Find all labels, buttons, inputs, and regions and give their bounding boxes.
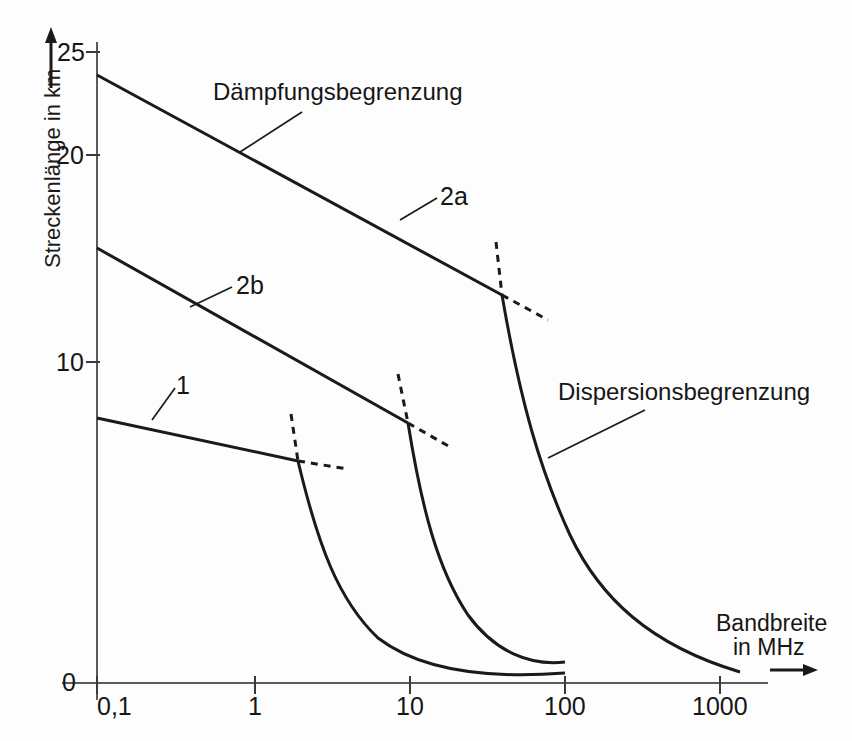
x-tick-label-100: 100: [544, 692, 586, 721]
curve-2a-label-leader: [400, 198, 437, 220]
dispersion-label-leader: [548, 410, 645, 458]
x-tick-label-0-1: 0,1: [97, 692, 132, 721]
y-tick-label-10: 10: [56, 348, 84, 377]
chart-figure: Streckenlänge in km 25 20 10 0 0,1 1 10 …: [0, 0, 852, 741]
x-tick-label-1: 1: [248, 692, 262, 721]
x-tick-label-10: 10: [396, 692, 424, 721]
y-tick-label-0: 0: [62, 668, 76, 697]
series-2a-dispersion-extension: [496, 242, 502, 295]
y-tick-label-20: 20: [56, 141, 84, 170]
attenuation-label-leader: [240, 112, 302, 152]
series-1-attenuation-extension: [298, 461, 348, 469]
x-tick-label-1000: 1000: [692, 692, 748, 721]
curve-1-label-leader: [152, 388, 175, 420]
series-1-attenuation-line: [97, 418, 298, 461]
annotation-curve-2b: 2b: [236, 271, 264, 300]
x-axis-title-line1: Bandbreite: [716, 610, 827, 636]
x-axis-title-line2: in MHz: [733, 634, 805, 660]
series-2a-attenuation-extension: [502, 295, 548, 320]
series-1-dispersion-curve: [298, 461, 565, 675]
y-tick-label-25: 25: [57, 38, 85, 67]
series-2b-dispersion-extension: [398, 374, 408, 423]
series-1-dispersion-extension: [291, 414, 298, 461]
curve-2b-label-leader: [190, 287, 232, 307]
series-2a-dispersion-curve: [502, 295, 740, 672]
series-2b-attenuation-extension: [408, 423, 450, 447]
annotation-curve-2a: 2a: [440, 182, 468, 211]
annotation-dispersion: Dispersionsbegrenzung: [558, 378, 810, 406]
x-axis-arrow-icon: [770, 664, 818, 676]
annotation-curve-1: 1: [176, 371, 190, 400]
annotation-attenuation: Dämpfungsbegrenzung: [213, 78, 463, 106]
